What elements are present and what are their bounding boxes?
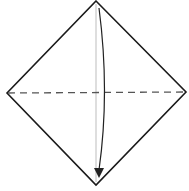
origami-diagram — [0, 0, 189, 191]
